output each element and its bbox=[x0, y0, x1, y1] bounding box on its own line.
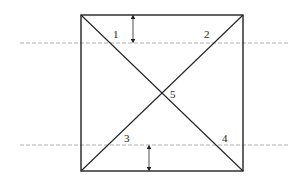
label-2: 2 bbox=[204, 28, 210, 40]
diagram-svg: 1 2 3 4 5 bbox=[0, 0, 305, 183]
label-1: 1 bbox=[113, 28, 119, 40]
diagram-canvas: 1 2 3 4 5 bbox=[0, 0, 305, 183]
label-3: 3 bbox=[124, 132, 130, 144]
label-5: 5 bbox=[170, 88, 176, 100]
label-4: 4 bbox=[222, 132, 228, 144]
